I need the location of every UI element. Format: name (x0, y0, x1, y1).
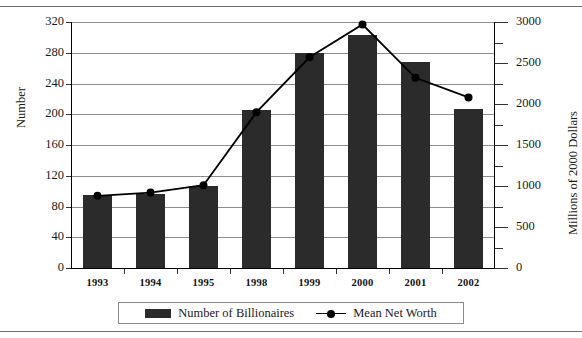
legend-label-billionaires: Number of Billionaires (178, 306, 294, 321)
y-right-tickmark (495, 22, 508, 23)
marker-1998 (253, 108, 261, 116)
x-tick-label-1993: 1993 (68, 277, 128, 288)
y-right-minor-tickmark (495, 43, 503, 44)
y-right-tickmark (495, 145, 508, 146)
x-tick-label-1998: 1998 (227, 277, 287, 288)
y-right-tickmark (495, 63, 508, 64)
x-tickmark (442, 269, 443, 274)
marker-1993 (94, 192, 102, 200)
figure-bottom-border (0, 331, 582, 332)
mean-net-worth-markers (94, 21, 473, 200)
legend-label-net-worth: Mean Net Worth (353, 306, 436, 321)
y-axis-right-title: Millions of 2000 Dollars (566, 111, 581, 235)
y-left-tick-label: 0 (20, 260, 64, 275)
chart-figure: 04080120160200240280320 0500100015002000… (0, 0, 582, 338)
marker-2000 (359, 21, 367, 29)
x-tick-label-2000: 2000 (333, 277, 393, 288)
line-series (71, 22, 495, 268)
y-right-tickmark (495, 186, 508, 187)
x-tickmark (389, 269, 390, 274)
y-left-tick-label: 40 (20, 229, 64, 244)
legend-item-billionaires: Number of Billionaires (145, 306, 294, 321)
marker-2002 (465, 93, 473, 101)
x-tickmark (336, 269, 337, 274)
y-right-minor-tickmark (495, 248, 503, 249)
y-right-tick-label: 2500 (516, 55, 541, 70)
line-swatch-icon (316, 309, 346, 318)
marker-1995 (200, 181, 208, 189)
y-axis-left-title: Number (14, 87, 29, 128)
plot-area (71, 22, 495, 268)
y-right-tickmark (495, 104, 508, 105)
y-right-tick-label: 1500 (516, 137, 541, 152)
y-left-tick-label: 320 (20, 14, 64, 29)
y-right-tick-label: 0 (516, 260, 522, 275)
y-right-tickmark (495, 227, 508, 228)
x-tick-label-2001: 2001 (386, 277, 446, 288)
bar-swatch-icon (145, 309, 171, 318)
mean-net-worth-line (98, 25, 469, 196)
y-left-tick-label: 280 (20, 45, 64, 60)
figure-top-border (0, 6, 582, 7)
x-tick-label-2002: 2002 (439, 277, 499, 288)
x-tickmark (177, 269, 178, 274)
x-tickmark (283, 269, 284, 274)
marker-2001 (412, 74, 420, 82)
x-tickmark (124, 269, 125, 274)
y-right-minor-tickmark (495, 166, 503, 167)
y-left-tick-label: 160 (20, 137, 64, 152)
axis-right (494, 22, 495, 268)
axis-left (71, 22, 72, 268)
legend-item-net-worth: Mean Net Worth (316, 306, 436, 321)
y-left-tick-label: 120 (20, 168, 64, 183)
x-tick-label-1995: 1995 (174, 277, 234, 288)
marker-1994 (147, 189, 155, 197)
chart-legend: Number of Billionaires Mean Net Worth (118, 302, 464, 324)
x-tick-label-1999: 1999 (280, 277, 340, 288)
marker-1999 (306, 53, 314, 61)
y-right-tick-label: 500 (516, 219, 535, 234)
x-tick-label-1994: 1994 (121, 277, 181, 288)
y-right-tick-label: 1000 (516, 178, 541, 193)
y-right-minor-tickmark (495, 84, 503, 85)
y-right-minor-tickmark (495, 207, 503, 208)
y-right-minor-tickmark (495, 125, 503, 126)
y-right-tick-label: 2000 (516, 96, 541, 111)
x-tickmark (230, 269, 231, 274)
y-left-tick-label: 80 (20, 199, 64, 214)
y-right-tick-label: 3000 (516, 14, 541, 29)
y-right-tickmark (495, 268, 508, 269)
